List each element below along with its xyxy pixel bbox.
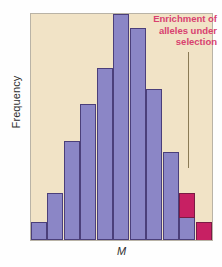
annotation-line-2: alleles under	[113, 25, 217, 37]
bar-10	[179, 193, 195, 240]
bar-7	[130, 28, 146, 240]
annotation-leader-line	[188, 52, 189, 168]
y-axis-label: Frequency	[10, 42, 22, 162]
annotation-line-3: selection	[113, 36, 217, 48]
bar-1	[31, 222, 47, 240]
bar-8	[146, 89, 162, 240]
bar-5	[97, 68, 113, 240]
bar-11-highlight-segment	[196, 222, 212, 241]
bar-4	[80, 104, 96, 240]
annotation-label: Enrichment of alleles under selection	[113, 13, 217, 48]
bar-11	[196, 222, 212, 240]
bar-9	[163, 152, 179, 240]
x-axis-label: M	[30, 245, 213, 257]
histogram-figure: Frequency Enrichment of alleles under se…	[0, 0, 222, 267]
bar-6	[113, 14, 129, 240]
bar-3	[64, 141, 80, 240]
bar-2	[47, 193, 63, 240]
bar-10-highlight-segment	[179, 193, 195, 218]
annotation-line-1: Enrichment of	[113, 13, 217, 25]
